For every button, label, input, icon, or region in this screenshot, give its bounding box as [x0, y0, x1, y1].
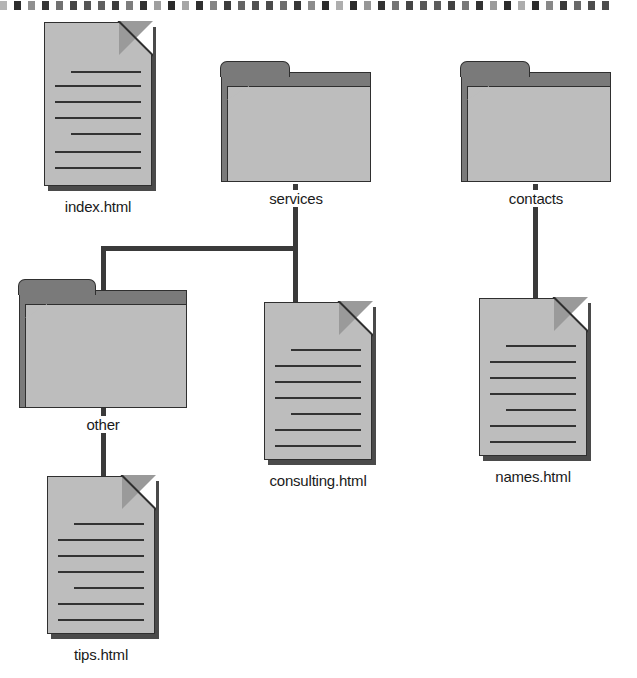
folder-icon	[19, 290, 187, 408]
binding-dot	[476, 1, 483, 10]
node-label-other: other	[19, 416, 187, 433]
binding-dot	[168, 1, 175, 10]
scan-binding-dots	[0, 0, 637, 14]
node-label-index-html: index.html	[44, 198, 152, 215]
binding-dot	[546, 1, 553, 10]
document-icon	[479, 298, 587, 456]
document-fold-edge	[105, 21, 153, 69]
folder-tab	[220, 61, 291, 77]
node-label-consulting-html: consulting.html	[264, 472, 372, 489]
folder-icon	[461, 72, 611, 182]
binding-dot	[126, 1, 133, 10]
folder-front-bevel	[25, 304, 47, 318]
binding-dot	[196, 1, 203, 10]
binding-dot	[560, 1, 567, 10]
binding-dot	[336, 1, 343, 10]
binding-dot	[322, 1, 329, 10]
binding-dot	[70, 1, 77, 10]
document-icon	[47, 476, 155, 634]
binding-dot	[42, 1, 49, 10]
binding-dot	[490, 1, 497, 10]
folder-front-panel	[467, 86, 611, 182]
node-consulting-html[interactable]: consulting.html	[264, 302, 372, 460]
binding-dot	[280, 1, 287, 10]
binding-dot	[350, 1, 357, 10]
document-fold-edge	[325, 301, 373, 349]
document-fold-edge	[108, 475, 156, 523]
binding-dot	[238, 1, 245, 10]
binding-dot	[504, 1, 511, 10]
folder-tab	[460, 61, 531, 77]
binding-dot	[294, 1, 301, 10]
node-label-tips-html: tips.html	[47, 646, 155, 663]
folder-tab	[18, 279, 97, 295]
binding-dot	[98, 1, 105, 10]
folder-icon	[221, 72, 371, 182]
binding-dot	[392, 1, 399, 10]
node-services[interactable]: services	[221, 72, 371, 182]
node-label-services: services	[221, 190, 371, 207]
folder-front-panel	[227, 86, 371, 182]
binding-dot	[210, 1, 217, 10]
node-other[interactable]: other	[19, 290, 187, 408]
node-label-names-html: names.html	[479, 468, 587, 485]
binding-dot	[448, 1, 455, 10]
binding-dot	[154, 1, 161, 10]
binding-dot	[0, 1, 7, 10]
connector-services-to-consulting	[293, 246, 298, 302]
binding-dot	[224, 1, 231, 10]
binding-dot	[112, 1, 119, 10]
binding-dot	[434, 1, 441, 10]
folder-front-bevel	[467, 86, 489, 100]
node-contacts[interactable]: contacts	[461, 72, 611, 182]
binding-dot	[588, 1, 595, 10]
document-icon	[264, 302, 372, 460]
binding-dot	[574, 1, 581, 10]
connector-services-to-other-horizontal	[101, 246, 298, 251]
folder-front-bevel	[227, 86, 249, 100]
document-fold-edge	[540, 297, 588, 345]
binding-dot	[56, 1, 63, 10]
node-tips-html[interactable]: tips.html	[47, 476, 155, 634]
binding-dot	[364, 1, 371, 10]
binding-dot	[378, 1, 385, 10]
binding-dot	[14, 1, 21, 10]
document-icon	[44, 22, 152, 186]
node-label-contacts: contacts	[461, 190, 611, 207]
binding-dot	[140, 1, 147, 10]
binding-dot	[518, 1, 525, 10]
binding-dot	[252, 1, 259, 10]
binding-dot	[602, 1, 609, 10]
binding-dot	[182, 1, 189, 10]
node-names-html[interactable]: names.html	[479, 298, 587, 456]
site-map-diagram: index.html services contacts	[0, 0, 637, 678]
binding-dot	[532, 1, 539, 10]
folder-front-panel	[25, 304, 187, 408]
binding-dot	[84, 1, 91, 10]
binding-dot	[462, 1, 469, 10]
binding-dot	[266, 1, 273, 10]
binding-dot	[406, 1, 413, 10]
node-index-html[interactable]: index.html	[44, 22, 152, 186]
binding-dot	[308, 1, 315, 10]
binding-dot	[28, 1, 35, 10]
binding-dot	[420, 1, 427, 10]
